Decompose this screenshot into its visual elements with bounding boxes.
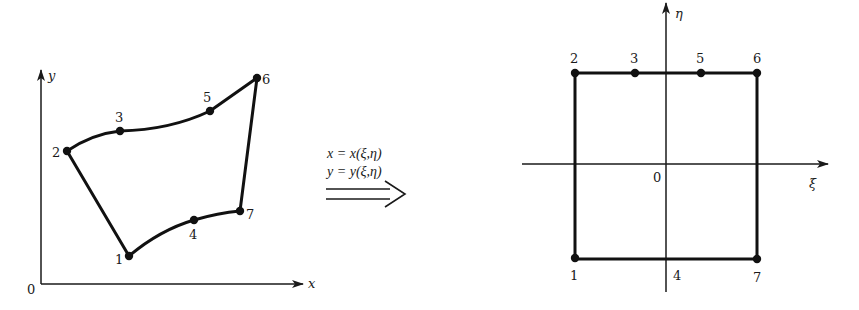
node-5-label: 5 [203, 90, 211, 105]
node-1-dot-natural [571, 254, 579, 262]
node-5-dot-natural [697, 69, 705, 77]
origin-label: 0 [27, 282, 35, 297]
node-2-dot [63, 147, 71, 155]
node-6-label: 6 [262, 72, 270, 87]
node-3-label-natural: 3 [630, 51, 638, 66]
x-axis-label: x [308, 276, 316, 291]
node-3-dot [116, 127, 124, 135]
node-2-dot-natural [571, 69, 579, 77]
physical-domain-panel: y x 0 1 2 3 4 5 6 7 [27, 68, 316, 297]
node-2-label: 2 [52, 145, 60, 160]
node-4-label-natural: 4 [673, 268, 681, 283]
node-7-dot-natural [753, 255, 761, 263]
node-2-label-natural: 2 [570, 51, 578, 66]
node-6-dot-natural [753, 69, 761, 77]
mapping-equation-y: y = y(ξ,η) [325, 164, 382, 180]
node-6-dot [253, 74, 261, 82]
node-7-dot [236, 207, 244, 215]
node-5-label-natural: 5 [696, 51, 704, 66]
node-4-label: 4 [189, 227, 197, 242]
element-edge-right [240, 78, 257, 211]
isoparametric-mapping-diagram: y x 0 1 2 3 4 5 6 7 x = x(ξ,η) y = y(ξ,η… [0, 0, 859, 310]
node-4-dot [190, 216, 198, 224]
mapping-annotation: x = x(ξ,η) y = y(ξ,η) [325, 146, 405, 207]
element-edge-left [67, 151, 129, 256]
node-7-label: 7 [246, 207, 254, 222]
node-7-label-natural: 7 [753, 270, 761, 285]
node-5-dot [206, 107, 214, 115]
xi-axis-label: ξ [809, 176, 817, 191]
node-3-dot-natural [631, 69, 639, 77]
node-3-label: 3 [115, 110, 123, 125]
natural-domain-panel: η ξ 0 1 2 3 4 5 6 7 [522, 3, 828, 292]
node-6-label-natural: 6 [753, 51, 761, 66]
eta-axis-label: η [675, 6, 683, 21]
node-1-label: 1 [115, 252, 123, 267]
natural-origin-label: 0 [653, 170, 661, 185]
mapping-equation-x: x = x(ξ,η) [326, 146, 382, 162]
element-edge-top [67, 78, 257, 151]
node-1-dot [125, 252, 133, 260]
y-axis-label: y [47, 68, 56, 83]
node-1-label-natural: 1 [570, 268, 578, 283]
element-edge-bottom [129, 211, 240, 256]
double-arrow-icon [326, 181, 405, 207]
